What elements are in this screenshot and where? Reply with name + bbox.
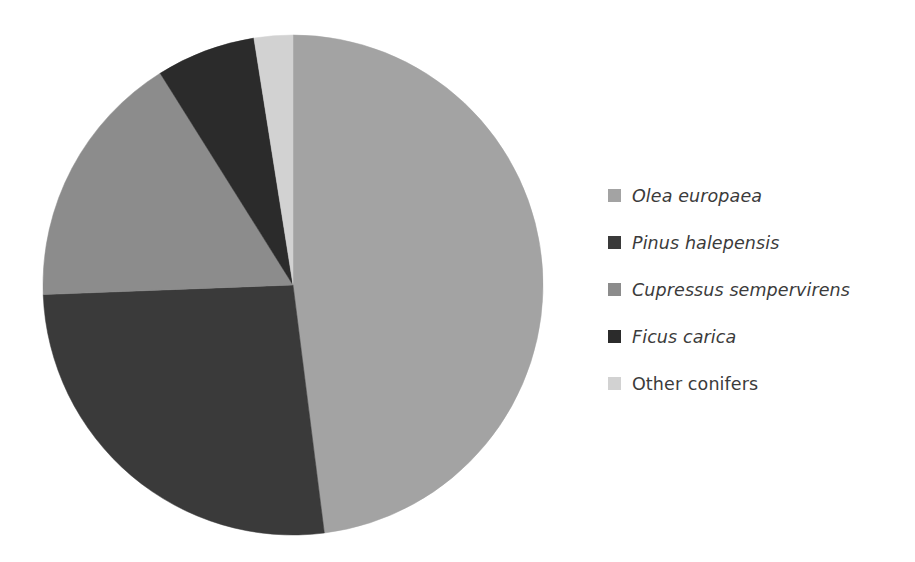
- chart-legend: Olea europaea Pinus halepensis Cupressus…: [608, 172, 908, 407]
- pie-chart-plot-area: [0, 0, 600, 562]
- legend-item-cupressus-sempervirens[interactable]: Cupressus sempervirens: [608, 266, 908, 313]
- pie-slice-olea-europaea[interactable]: [293, 35, 543, 533]
- legend-item-pinus-halepensis[interactable]: Pinus halepensis: [608, 219, 908, 266]
- pie-slice-group: [43, 35, 543, 535]
- legend-swatch-other-conifers: [608, 377, 621, 390]
- legend-swatch-ficus-carica: [608, 330, 621, 343]
- legend-label-pinus-halepensis: Pinus halepensis: [632, 233, 779, 253]
- legend-item-olea-europaea[interactable]: Olea europaea: [608, 172, 908, 219]
- legend-label-ficus-carica: Ficus carica: [632, 327, 736, 347]
- pie-chart-svg: [0, 0, 600, 562]
- legend-label-cupressus-sempervirens: Cupressus sempervirens: [632, 280, 850, 300]
- legend-item-other-conifers[interactable]: Other conifers: [608, 360, 908, 407]
- legend-label-olea-europaea: Olea europaea: [632, 186, 762, 206]
- legend-item-ficus-carica[interactable]: Ficus carica: [608, 313, 908, 360]
- pie-chart-figure: Olea europaea Pinus halepensis Cupressus…: [0, 0, 915, 562]
- legend-swatch-olea-europaea: [608, 189, 621, 202]
- legend-swatch-pinus-halepensis: [608, 236, 621, 249]
- legend-swatch-cupressus-sempervirens: [608, 283, 621, 296]
- legend-label-other-conifers: Other conifers: [632, 374, 758, 394]
- pie-slice-pinus-halepensis[interactable]: [43, 285, 324, 535]
